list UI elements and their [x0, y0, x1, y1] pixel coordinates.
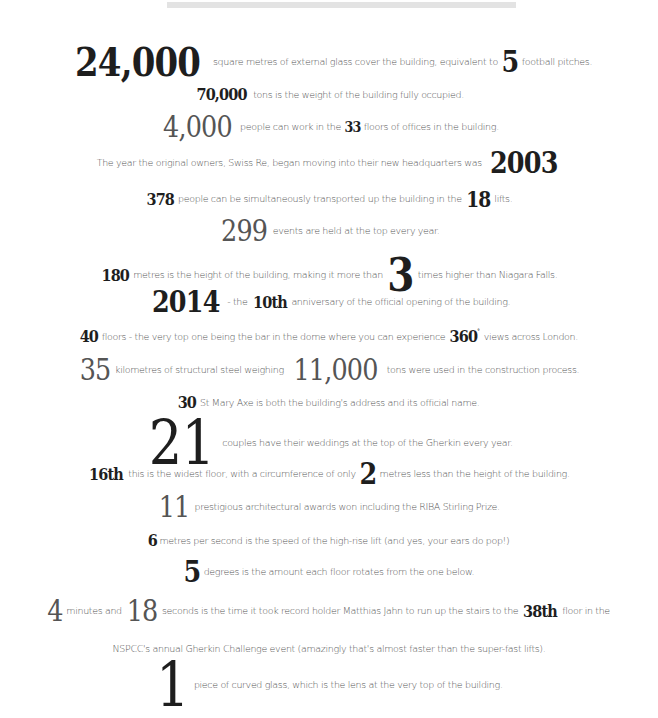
fact-text: lifts. — [492, 193, 514, 204]
fact-text: times higher than Niagara Falls. — [416, 269, 560, 280]
fact-text: floor in the — [560, 605, 612, 616]
top-divider-bar — [167, 2, 516, 8]
fact-text: kilometres of structural steel weighing — [113, 364, 286, 375]
fact-glass-area: 24,000square metres of external glass co… — [0, 42, 658, 82]
stat-number: 2003 — [490, 148, 558, 178]
fact-text: metres less than the height of the build… — [378, 468, 572, 479]
fact-text: floors of offices in the building. — [362, 121, 501, 132]
fact-text: anniversary of the official opening of t… — [289, 296, 512, 307]
stat-number: 5 — [183, 557, 200, 587]
stat-number: 33 — [344, 120, 360, 135]
stat-number: 38th — [523, 603, 557, 620]
stat-number: 24,000 — [75, 42, 200, 82]
fact-text: metres is the height of the building, ma… — [131, 269, 385, 280]
fact-floor-rotation: 5degrees is the amount each floor rotate… — [0, 557, 658, 587]
stat-number: 6 — [147, 532, 156, 549]
fact-text: tons is the weight of the building fully… — [251, 89, 466, 100]
stat-number: 11,000 — [293, 355, 377, 385]
stat-number: 378 — [146, 191, 174, 208]
fact-lift-capacity: 378people can be simultaneously transpor… — [0, 188, 658, 210]
fact-year-moved-in: The year the original owners, Swiss Re, … — [0, 148, 658, 178]
stat-number: 180 — [101, 267, 129, 284]
fact-text: floors - the very top one being the bar … — [100, 331, 448, 342]
fact-text: square metres of external glass cover th… — [211, 56, 500, 67]
fact-text: - the — [225, 296, 249, 307]
fact-text: seconds is the time it took record holde… — [160, 605, 520, 616]
fact-building-weight: 70,000tons is the weight of the building… — [0, 86, 658, 103]
stat-number: 2014 — [152, 287, 220, 317]
fact-lift-speed: 6metres per second is the speed of the h… — [0, 532, 658, 549]
fact-curved-glass: 1piece of curved glass, which is the len… — [0, 654, 658, 716]
stat-number: 10th — [253, 294, 287, 311]
stat-number: 5 — [501, 47, 518, 77]
fact-text: couples have their weddings at the top o… — [220, 437, 514, 448]
fact-address: 30St Mary Axe is both the building's add… — [0, 394, 658, 411]
fact-text: people can work in the — [238, 121, 343, 132]
stat-number: 18 — [466, 188, 490, 210]
stat-number: 4,000 — [163, 112, 232, 142]
fact-text: football pitches. — [520, 56, 594, 67]
fact-text: events are held at the top every year. — [271, 225, 442, 236]
fact-text: tons were used in the construction proce… — [385, 364, 581, 375]
stat-number: 70,000 — [197, 86, 247, 103]
fact-text: metres per second is the speed of the hi… — [157, 535, 511, 546]
stat-number: 4 — [48, 596, 63, 626]
fact-floors-views: 40floors - the very top one being the ba… — [0, 328, 658, 345]
stat-number: 16th — [89, 466, 123, 483]
stat-number: 35 — [80, 355, 111, 385]
fact-awards: 11prestigious architectural awards won i… — [0, 492, 658, 522]
fact-structural-steel: 35kilometres of structural steel weighin… — [0, 355, 658, 385]
fact-text: degrees is the amount each floor rotates… — [202, 566, 477, 577]
fact-text: prestigious architectural awards won inc… — [192, 501, 501, 512]
stat-number: 299 — [221, 216, 267, 246]
fact-text: this is the widest floor, with a circumf… — [126, 468, 357, 479]
fact-text: piece of curved glass, which is the lens… — [192, 679, 505, 690]
fact-text: views across London. — [482, 331, 580, 342]
fact-text: St Mary Axe is both the building's addre… — [198, 397, 481, 408]
fact-stair-record: 4minutes and18seconds is the time it too… — [0, 596, 658, 626]
fact-text: The year the original owners, Swiss Re, … — [95, 157, 484, 168]
fact-office-workers: 4,000people can work in the33floors of o… — [0, 112, 658, 142]
fact-anniversary: 2014- the10thanniversary of the official… — [0, 287, 658, 317]
stat-number: 11 — [159, 492, 190, 522]
stat-number: 1 — [156, 654, 189, 716]
fact-events: 299events are held at the top every year… — [0, 216, 658, 246]
degree-symbol: ° — [478, 327, 480, 334]
fact-widest-floor: 16ththis is the widest floor, with a cir… — [0, 459, 658, 489]
stat-number: 40 — [80, 328, 98, 345]
stat-number: 18 — [126, 596, 157, 626]
stat-number: 360° — [450, 328, 479, 345]
fact-text: people can be simultaneously transported… — [176, 193, 464, 204]
stat-number: 2 — [359, 459, 376, 489]
fact-text: minutes and — [64, 605, 124, 616]
